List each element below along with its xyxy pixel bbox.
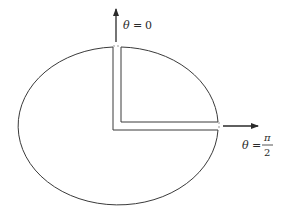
ellipse-boundary xyxy=(18,47,218,205)
theta-half-pi-numerator: π xyxy=(263,132,271,143)
theta-zero-symbol: θ xyxy=(123,19,130,32)
diagram-canvas: θ = 0 θ = π 2 xyxy=(0,0,283,213)
theta-half-pi-equals: = xyxy=(252,139,261,152)
channel-outer-edge xyxy=(113,47,218,130)
theta-zero-label: θ = 0 xyxy=(123,19,152,32)
theta-half-pi-label: θ = π 2 xyxy=(242,132,273,158)
theta-zero-value: 0 xyxy=(145,19,152,32)
ellipse-boundary-quarter xyxy=(121,47,218,122)
theta-half-pi-symbol: θ xyxy=(242,139,249,152)
theta-zero-equals: = xyxy=(133,19,142,32)
theta-half-pi-denominator: 2 xyxy=(264,147,270,158)
